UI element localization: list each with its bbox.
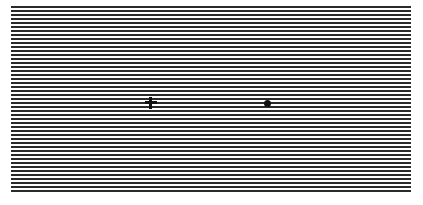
target-dot-icon: [264, 100, 271, 107]
figure: [0, 0, 423, 205]
horizontal-line-grating: [11, 6, 411, 194]
figure-caption: [11, 198, 411, 205]
fixation-cross-icon: [145, 97, 157, 109]
